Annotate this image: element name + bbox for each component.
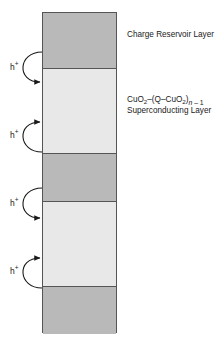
- band-superconducting-2: [43, 201, 116, 286]
- superconducting-layer-label: CuO2–(Q–CuO2)n – 1 Superconducting Layer: [127, 94, 211, 116]
- superconducting-formula: CuO2–(Q–CuO2)n – 1: [127, 94, 211, 105]
- hole-arrow-4: [23, 258, 42, 288]
- superconducting-formula-caption: Superconducting Layer: [127, 105, 211, 116]
- band-divider-3: [43, 201, 116, 202]
- band-charge-reservoir-1: [43, 13, 116, 68]
- hole-arrow-1: [23, 52, 42, 82]
- band-superconducting-1: [43, 68, 116, 153]
- band-divider-2: [43, 153, 116, 154]
- hole-label-1: h+: [10, 63, 19, 72]
- hole-arrow-2: [23, 122, 42, 152]
- band-charge-reservoir-2: [43, 153, 116, 201]
- band-charge-reservoir-3: [43, 286, 116, 334]
- hole-label-4: h+: [10, 267, 19, 276]
- hole-label-3: h+: [10, 199, 19, 208]
- charge-reservoir-layer-label: Charge Reservoir Layer: [127, 29, 214, 40]
- band-divider-4: [43, 286, 116, 287]
- band-divider-1: [43, 68, 116, 69]
- hole-arrow-3: [23, 188, 42, 218]
- layer-stack: [42, 12, 117, 333]
- layer-diagram-figure: h+ h+ h+ h+ Charge Reservoir Layer CuO2–…: [0, 0, 224, 346]
- hole-label-2: h+: [10, 131, 19, 140]
